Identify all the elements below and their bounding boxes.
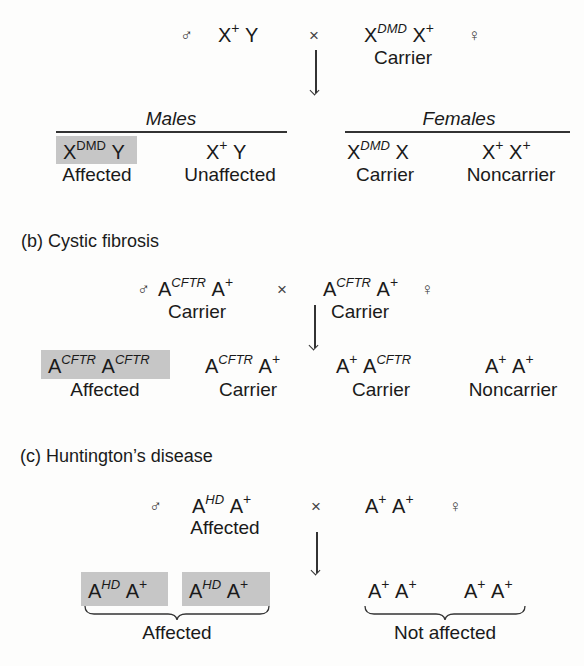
affected-group-label: Affected: [142, 622, 211, 644]
offspring-genotype-1: XDMD Y: [63, 141, 125, 163]
offspring-genotype-4: X+ X+: [482, 141, 531, 163]
not-affected-brace-icon: [364, 606, 526, 620]
male-parent-genotype: X+ Y: [218, 24, 258, 46]
offspring-genotype-2: AHD A+: [189, 580, 248, 602]
female-parent-genotype: A+ A+: [365, 495, 414, 517]
males-header: Males: [146, 108, 197, 130]
female-parent-genotype: ACFTR A+: [323, 278, 398, 300]
female-parent-label: Carrier: [374, 47, 432, 69]
offspring-genotype-3: A+ ACFTR: [336, 355, 411, 377]
offspring-label-1: Affected: [70, 379, 139, 401]
females-header: Females: [423, 108, 496, 130]
males-divider: [56, 131, 287, 133]
offspring-genotype-3: XDMD X: [347, 141, 409, 163]
offspring-label-3: Carrier: [352, 379, 410, 401]
male-symbol-icon: ♂: [180, 25, 193, 47]
female-symbol-icon: ♀: [468, 25, 481, 47]
offspring-label-2: Unaffected: [184, 164, 276, 186]
panel-c-title: (c) Huntington’s disease: [20, 445, 213, 467]
male-symbol-icon: ♂: [137, 279, 150, 301]
offspring-genotype-3: A+ A+: [368, 580, 417, 602]
male-parent-genotype: ACFTR A+: [158, 278, 233, 300]
offspring-label-2: Carrier: [219, 379, 277, 401]
female-symbol-icon: ♀: [449, 496, 462, 518]
female-symbol-icon: ♀: [421, 279, 434, 301]
male-parent-label: Affected: [190, 517, 259, 539]
cross-symbol: ×: [309, 25, 319, 47]
panel-b-title: (b) Cystic fibrosis: [21, 230, 159, 252]
male-symbol-icon: ♂: [149, 496, 162, 518]
female-parent-label: Carrier: [331, 301, 389, 323]
down-arrow-icon: [315, 50, 317, 93]
cross-symbol: ×: [277, 279, 287, 301]
offspring-label-4: Noncarrier: [467, 164, 556, 186]
offspring-label-4: Noncarrier: [469, 379, 558, 401]
offspring-label-1: Affected: [62, 164, 131, 186]
male-parent-label: Carrier: [168, 301, 226, 323]
down-arrow-icon: [314, 305, 316, 348]
offspring-genotype-4: A+ A+: [485, 355, 534, 377]
offspring-label-3: Carrier: [356, 164, 414, 186]
offspring-genotype-1: AHD A+: [88, 580, 147, 602]
offspring-genotype-4: A+ A+: [464, 580, 513, 602]
offspring-genotype-2: X+ Y: [206, 141, 246, 163]
females-divider: [345, 131, 570, 133]
female-parent-genotype: XDMD X+: [364, 24, 434, 46]
down-arrow-icon: [316, 532, 318, 573]
offspring-genotype-1: ACFTR ACFTR: [48, 355, 150, 377]
cross-symbol: ×: [311, 496, 321, 518]
affected-brace-icon: [84, 606, 270, 620]
not-affected-group-label: Not affected: [394, 622, 496, 644]
offspring-genotype-2: ACFTR A+: [205, 355, 280, 377]
male-parent-genotype: AHD A+: [192, 495, 251, 517]
